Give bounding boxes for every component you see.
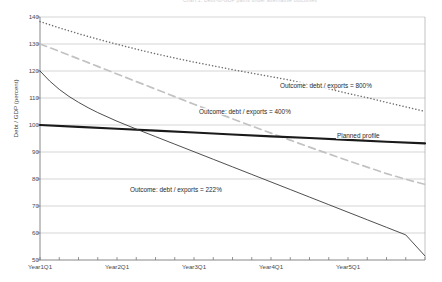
chart-container: Chart 1. Debt-to-GDP paths under alterna… [0,0,442,282]
gridlines [40,17,425,233]
series-annotation: Planned profile [336,132,381,139]
series-line [40,71,425,256]
series-annotation: Outcome: debt / exports = 800% [279,82,373,89]
plot-area [0,0,442,282]
series-annotation: Outcome: debt / exports = 400% [198,108,292,115]
series-annotation: Outcome: debt / exports = 222% [129,186,223,193]
